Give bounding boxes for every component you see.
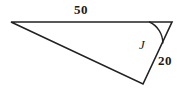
side-length-label-right: 20 bbox=[158, 54, 172, 67]
side-length-label-top: 50 bbox=[74, 3, 88, 16]
angle-arc bbox=[150, 22, 163, 43]
triangle-drawing bbox=[0, 0, 177, 99]
triangle-figure: 50 20 J bbox=[0, 0, 177, 99]
angle-label: J bbox=[139, 38, 145, 51]
triangle-shape bbox=[11, 22, 172, 84]
